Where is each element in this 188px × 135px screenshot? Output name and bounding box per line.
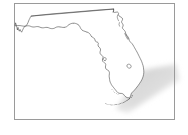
florida-map-figure: Florida Outline map of the state of Flor… — [0, 0, 188, 135]
tampa-bay — [103, 58, 106, 61]
map-canvas — [0, 0, 188, 135]
